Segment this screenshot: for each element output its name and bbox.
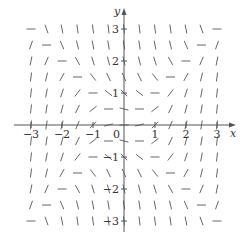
slope-segment [45,25,48,33]
x-tick-label: 2 [183,128,190,141]
x-tick-label: 1 [152,128,159,141]
slope-segment [139,217,140,226]
slope-segment [185,105,187,114]
y-tick-label: 3 [112,23,119,36]
slope-segment [61,105,63,114]
slope-segment [61,25,63,34]
slope-segment [185,25,187,34]
slope-segment [185,89,188,98]
slope-segment [217,105,218,114]
slope-segment [30,169,31,178]
slope-segment [107,57,109,66]
slope-segment [216,185,218,194]
slope-segment [92,201,94,210]
slope-segment [184,201,188,209]
slope-segment [45,73,47,82]
slope-field-figure: −3−2−1123321−1−2−3 x y 0 [0,0,248,244]
slope-segment [154,185,157,194]
slope-segment [138,57,140,66]
slope-segment [30,153,31,162]
slope-segment [77,25,78,34]
slope-segment [154,25,155,34]
slope-field-plot: −3−2−1123321−1−2−3 x y 0 [0,0,248,244]
slope-segment [136,154,143,160]
slope-segment [75,89,81,96]
x-tick-label: −3 [23,128,39,141]
slope-segment [200,57,204,65]
slope-segment [30,89,31,98]
slope-segment [168,57,172,65]
slope-segment [169,41,171,50]
slope-segment [201,89,203,98]
x-tick-label: −2 [54,128,70,141]
slope-segment [170,25,171,34]
y-tick-label: −2 [103,183,119,196]
slope-segment [107,169,111,177]
slope-segment [46,105,47,114]
slope-segment [92,217,93,226]
slope-segment [201,105,202,114]
y-axis-arrow-icon [122,8,127,15]
slope-segment [201,137,202,146]
slope-segment [200,185,204,193]
slope-segment [152,169,158,176]
slope-segment [60,201,64,209]
slope-segment [151,106,158,112]
slope-segment [92,41,94,50]
slope-segment [200,169,202,178]
slope-segment [216,201,219,209]
slope-segment [154,41,156,50]
slope-segment [76,105,80,113]
slope-segment [168,89,174,96]
slope-segment [216,57,218,66]
slope-segment [105,90,112,96]
origin-label: 0 [113,128,120,141]
slope-segment [139,41,140,50]
slope-segment [75,57,79,65]
slope-segment [152,73,158,80]
slope-segment [60,169,64,177]
slope-segment [169,201,171,210]
slope-segment [30,57,32,66]
slope-segment [45,185,49,193]
slope-segment [184,169,188,177]
slope-segment [45,57,49,65]
slope-segment [108,25,109,34]
slope-segment [61,217,63,226]
slope-segment [45,217,48,225]
y-tick-label: 2 [112,55,119,68]
slope-segment [216,169,217,178]
slope-segment [30,73,31,82]
slope-segment [76,201,78,210]
slope-segment [75,185,79,193]
slope-segment [138,73,142,81]
slope-segment [154,57,157,66]
slope-segment [154,201,156,210]
axes [14,8,236,232]
slope-segment [216,89,217,98]
slope-segment [92,57,95,66]
slope-segment [216,41,219,49]
slope-segment [75,153,81,160]
y-tick-label: −1 [103,151,119,164]
slope-segment [92,25,93,34]
slope-segment [200,25,203,33]
slope-segment [200,73,202,82]
y-axis-label: y [113,5,121,18]
slope-segment [61,153,64,162]
slope-segment [61,89,64,98]
slope-segment [31,105,32,114]
x-tick-label: 3 [214,128,221,141]
slope-segment [45,169,47,178]
slope-segment [184,41,188,49]
y-tick-label: −3 [103,215,119,228]
x-axis-label: x [230,127,237,140]
slope-segment [136,90,143,96]
slope-segment [77,217,78,226]
slope-segment [139,25,140,34]
slope-segment [60,73,64,81]
slope-segment [154,217,155,226]
slope-segment [168,153,174,160]
slope-segment [92,185,95,194]
slope-segment [30,201,33,209]
